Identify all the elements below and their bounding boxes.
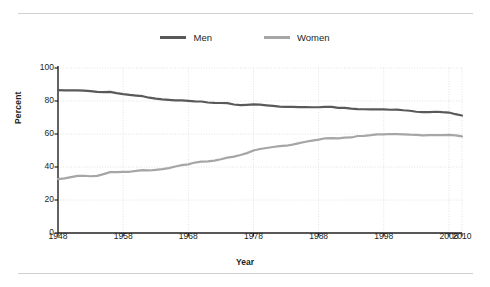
series-line-women (58, 134, 462, 179)
plot-area (0, 0, 490, 287)
chart-figure: Men Women Percent Year 020406080100 1948… (0, 0, 490, 287)
series-line-men (58, 90, 462, 115)
